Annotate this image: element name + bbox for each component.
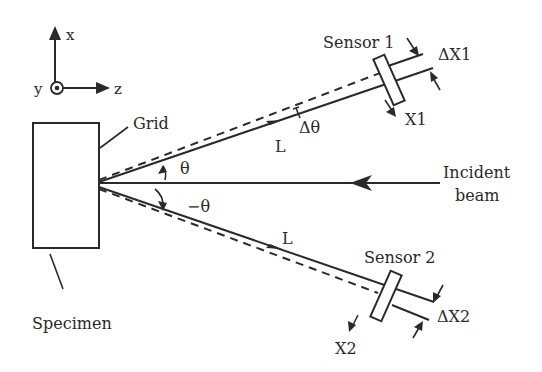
z-axis-arrowhead-icon xyxy=(96,82,110,94)
theta-label: θ xyxy=(180,159,190,178)
upper-length-label: L xyxy=(275,137,286,156)
sensor-2-body xyxy=(370,271,401,322)
z-axis-label: z xyxy=(114,80,122,98)
x1-label: X1 xyxy=(405,110,427,129)
delta-theta-label: Δθ xyxy=(299,118,320,137)
delta-x2-arrowhead-top-icon xyxy=(433,292,441,303)
x-axis-label: x xyxy=(66,26,75,44)
x-axis-arrowhead-icon xyxy=(49,26,61,40)
incident-beam-label-2: beam xyxy=(455,186,499,205)
delta-theta-tick-top xyxy=(293,107,299,109)
diagram-canvas: x y z Specimen Grid Incident beam Δθ L θ… xyxy=(0,0,542,372)
grid-leader-line xyxy=(100,127,128,148)
coordinate-axes: x y z xyxy=(33,26,122,98)
sensor-2-label: Sensor 2 xyxy=(364,248,436,267)
incident-beam-label-1: Incident xyxy=(443,163,511,182)
delta-x2-label: ΔX2 xyxy=(437,307,470,326)
y-axis-dot-icon xyxy=(55,86,60,91)
grid-label: Grid xyxy=(133,114,169,133)
specimen-leader-line xyxy=(50,254,63,289)
sensor-1-label: Sensor 1 xyxy=(323,33,395,52)
x2-label: X2 xyxy=(335,339,357,358)
neg-theta-label: −θ xyxy=(187,197,210,216)
lower-reference-beam-dashed xyxy=(99,189,378,293)
specimen-label: Specimen xyxy=(32,314,112,333)
lower-length-label: L xyxy=(282,229,293,248)
upper-shift-line xyxy=(388,54,423,66)
sensor-2 xyxy=(370,271,401,322)
y-axis-label: y xyxy=(33,80,43,98)
delta-x1-label: ΔX1 xyxy=(438,45,471,64)
lower-shift-line xyxy=(392,305,429,320)
specimen-block xyxy=(33,123,99,248)
